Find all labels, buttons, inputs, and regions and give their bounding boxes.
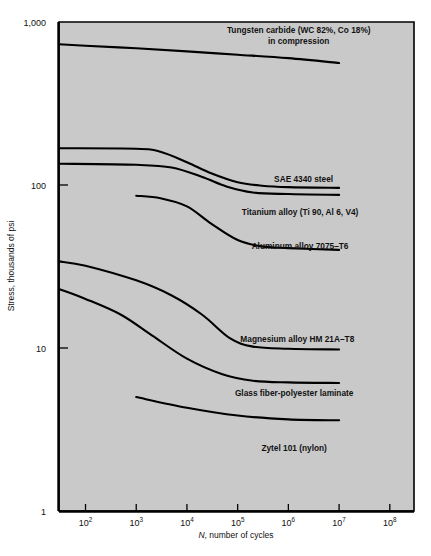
curve-label-3: Aluminum alloy 7075–T6 bbox=[252, 241, 349, 251]
y-tick-label: 10 bbox=[36, 344, 46, 354]
curve-label-1: SAE 4340 steel bbox=[274, 174, 333, 184]
curve-label-5: Glass fiber-polyester laminate bbox=[235, 388, 354, 398]
curve-label-4: Magnesium alloy HM 21A–T8 bbox=[240, 334, 354, 344]
x-axis-title: N, number of cycles bbox=[198, 530, 273, 540]
y-axis-title: Stress, thousands of psi bbox=[6, 221, 16, 312]
curve-label-6: Zytel 101 (nylon) bbox=[261, 443, 327, 453]
curve-label-2: Titanium alloy (Ti 90, Al 6, V4) bbox=[242, 207, 359, 217]
y-tick-label: 1,000 bbox=[23, 18, 46, 28]
y-tick-label: 100 bbox=[31, 181, 46, 191]
fatigue-sn-curve-chart: Tungsten carbide (WC 82%, Co 18%)in comp… bbox=[0, 0, 431, 556]
curve-label-0: in compression bbox=[268, 36, 329, 46]
plot-area-background bbox=[59, 22, 414, 511]
y-tick-label: 1 bbox=[41, 507, 46, 517]
curve-label-0: Tungsten carbide (WC 82%, Co 18%) bbox=[227, 25, 371, 35]
